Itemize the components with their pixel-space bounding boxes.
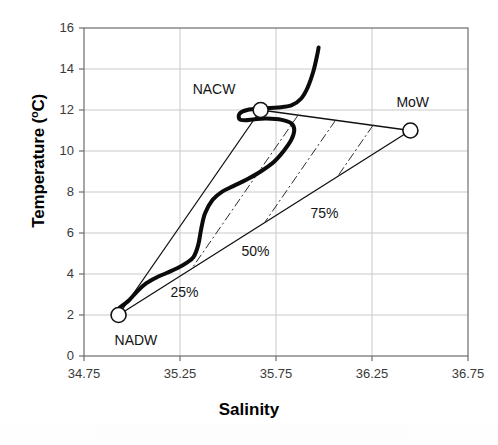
y-tick-label: 2 [40, 307, 74, 322]
isoline-label-75pct: 75% [311, 205, 339, 221]
y-tick-label: 4 [40, 266, 74, 281]
y-tick-label: 14 [40, 61, 74, 76]
endmember-label-nadw: NADW [115, 332, 158, 348]
x-tick-label: 35.25 [145, 366, 215, 381]
y-tick-label: 6 [40, 225, 74, 240]
endmember-label-nacw: NACW [193, 81, 236, 97]
x-tick-label: 36.75 [433, 366, 498, 381]
endmember-marker-nadw [111, 308, 126, 323]
gridlines [84, 28, 468, 356]
y-tick-label: 0 [40, 348, 74, 363]
ts-diagram-figure: Temperature (oC) Salinity 0246810121416 … [0, 0, 498, 445]
x-tick-label: 34.75 [49, 366, 119, 381]
mixing-line-nadw-mow [119, 131, 411, 316]
isoline-label-25pct: 25% [170, 284, 198, 300]
endmember-label-mow: MoW [396, 94, 429, 110]
y-tick-label: 12 [40, 102, 74, 117]
y-tick-label: 10 [40, 143, 74, 158]
x-tick-label: 35.75 [241, 366, 311, 381]
axis-tick-marks [79, 28, 468, 361]
endmember-marker-mow [403, 123, 418, 138]
mixing-triangle [119, 110, 411, 315]
scan-artifact [0, 424, 498, 445]
y-tick-label: 8 [40, 184, 74, 199]
isoline-label-50pct: 50% [241, 243, 269, 259]
endmember-marker-nacw [253, 103, 268, 118]
y-tick-label: 16 [40, 20, 74, 35]
x-tick-label: 36.25 [337, 366, 407, 381]
